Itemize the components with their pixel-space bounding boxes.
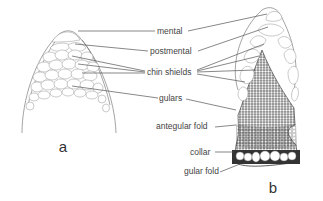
panel-a-label: a: [59, 138, 68, 155]
label-antegular-fold: antegular fold: [156, 121, 236, 131]
svg-text:mental: mental: [157, 26, 183, 36]
label-mental: mental: [78, 14, 267, 36]
svg-text:gular fold: gular fold: [184, 166, 219, 176]
svg-text:collar: collar: [190, 147, 210, 157]
svg-text:gulars: gulars: [159, 93, 182, 103]
label-gular-fold: gular fold: [184, 164, 240, 176]
label-collar: collar: [190, 147, 234, 157]
panel-b-head: [232, 8, 300, 167]
panel-b-label: b: [269, 179, 277, 196]
diagram-canvas: a b me: [0, 0, 323, 201]
svg-text:chin shields: chin shields: [147, 67, 191, 77]
panel-a-head: [22, 31, 116, 133]
svg-text:antegular fold: antegular fold: [156, 121, 208, 131]
svg-text:postmental: postmental: [150, 46, 192, 56]
label-gulars: gulars: [72, 86, 236, 110]
